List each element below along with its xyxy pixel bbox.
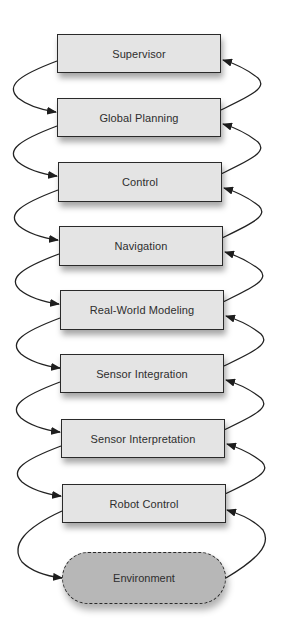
layered-architecture-diagram: Supervisor Global Planning Control Navig… (0, 0, 290, 635)
down-arrow-3 (14, 190, 58, 240)
layer-label: Robot Control (109, 498, 178, 510)
down-arrow-5 (16, 318, 60, 368)
up-arrow-2 (221, 124, 261, 174)
layer-label: Navigation (115, 240, 168, 252)
layer-label: Control (122, 176, 158, 188)
layer-label: Sensor Integration (96, 368, 188, 380)
down-arrow-6 (16, 382, 60, 432)
layer-real-world-modeling: Real-World Modeling (60, 290, 224, 330)
layer-sensor-integration: Sensor Integration (60, 354, 224, 393)
up-arrow-1 (221, 60, 261, 110)
down-arrow-7 (17, 446, 61, 496)
up-arrow-4 (223, 252, 263, 302)
layer-control: Control (58, 162, 222, 202)
up-arrow-5 (224, 316, 264, 366)
environment-node: Environment (62, 552, 226, 604)
up-arrow-3 (222, 188, 262, 238)
layer-sensor-interpretation: Sensor Interpretation (61, 419, 225, 458)
layer-global-planning: Global Planning (57, 98, 221, 137)
layer-navigation: Navigation (59, 226, 223, 266)
layer-label: Supervisor (112, 48, 166, 60)
up-arrow-6 (224, 380, 264, 430)
up-arrow-7 (225, 444, 265, 494)
layer-supervisor: Supervisor (57, 34, 221, 73)
down-arrow-4 (15, 254, 59, 304)
layer-label: Global Planning (99, 112, 178, 124)
down-arrow-1 (13, 61, 57, 112)
environment-label: Environment (113, 572, 175, 584)
down-arrow-2 (13, 126, 57, 176)
layer-label: Real-World Modeling (90, 304, 194, 316)
layer-robot-control: Robot Control (62, 484, 226, 523)
up-arrow-8 (226, 510, 265, 578)
layer-label: Sensor Interpretation (91, 433, 196, 445)
down-arrow-8 (18, 511, 62, 578)
